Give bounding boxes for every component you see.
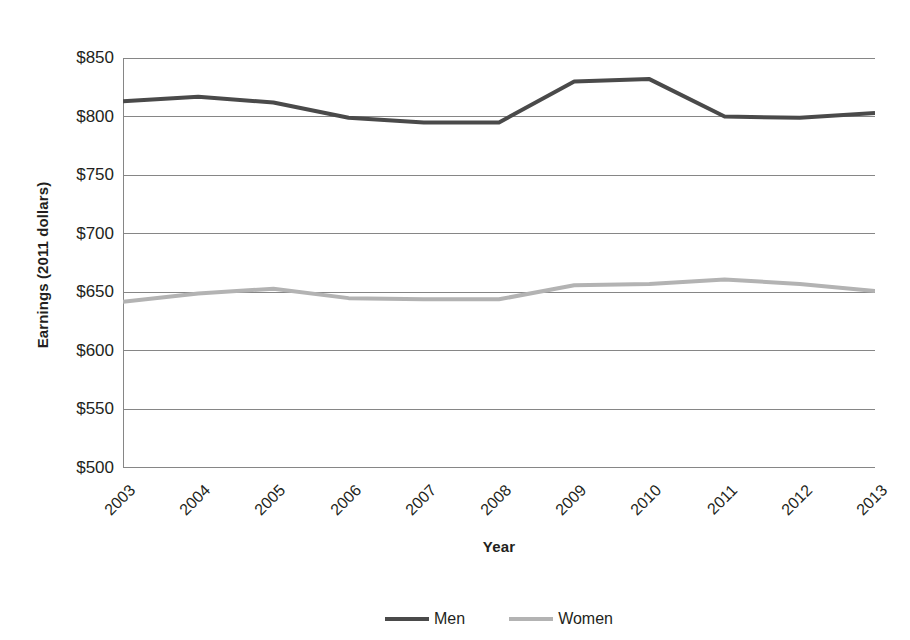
plot-svg (123, 58, 875, 468)
chart-legend: MenWomen (123, 604, 875, 634)
x-axis-tick-labels: 2003200420052006200720082009201020112012… (123, 468, 875, 538)
legend-swatch-icon (385, 617, 429, 621)
x-tick-label: 2005 (245, 482, 289, 526)
x-tick-label: 2007 (395, 482, 439, 526)
x-tick-label: 2009 (546, 482, 590, 526)
y-tick-label: $650 (52, 283, 114, 300)
x-tick-label: 2010 (621, 482, 665, 526)
x-tick-label: 2013 (846, 482, 890, 526)
legend-label: Women (558, 611, 613, 627)
legend-item[interactable]: Men (385, 611, 465, 627)
y-tick-label: $500 (52, 459, 114, 476)
y-tick-label: $700 (52, 225, 114, 242)
legend-swatch-icon (509, 617, 553, 621)
legend-item[interactable]: Women (509, 611, 613, 627)
earnings-line-chart: Earnings (2011 dollars) $850$800$750$700… (0, 0, 910, 640)
y-tick-label: $800 (52, 108, 114, 125)
y-axis-tick-labels: $850$800$750$700$650$600$550$500 (48, 0, 114, 640)
y-tick-label: $850 (52, 49, 114, 66)
y-tick-label: $550 (52, 400, 114, 417)
x-tick-label: 2004 (170, 482, 214, 526)
x-tick-label: 2011 (696, 482, 740, 526)
plot-area (123, 58, 875, 468)
x-tick-label: 2012 (771, 482, 815, 526)
x-tick-label: 2008 (470, 482, 514, 526)
x-axis-title: Year (123, 538, 875, 555)
x-tick-label: 2006 (320, 482, 364, 526)
legend-label: Men (434, 611, 465, 627)
series-line-men (123, 79, 875, 122)
series-line-women (123, 279, 875, 301)
y-tick-label: $750 (52, 166, 114, 183)
y-tick-label: $600 (52, 342, 114, 359)
